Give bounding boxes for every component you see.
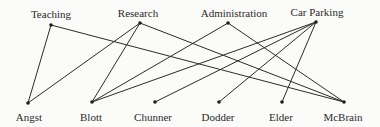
edge-car_parking-chunner <box>155 22 316 102</box>
node-label-dodder: Dodder <box>202 111 235 123</box>
edge-car_parking-blott <box>92 22 316 102</box>
node-label-teaching: Teaching <box>31 8 71 20</box>
edge-teaching-angst <box>28 25 51 103</box>
edge-administration-mcbrain <box>228 23 344 102</box>
bipartite-diagram: TeachingResearchAdministrationCar Parkin… <box>0 0 380 127</box>
node-label-administration: Administration <box>201 7 268 19</box>
node-label-research: Research <box>118 7 158 19</box>
node-dot-research <box>138 21 142 25</box>
node-label-elder: Elder <box>269 111 293 123</box>
node-label-blott: Blott <box>80 111 102 123</box>
node-dot-car_parking <box>314 20 318 24</box>
node-dot-chunner <box>153 100 157 104</box>
edge-teaching-mcbrain <box>51 25 344 102</box>
node-dot-blott <box>90 100 94 104</box>
node-dot-teaching <box>49 23 53 27</box>
node-label-angst: Angst <box>16 111 42 123</box>
edge-administration-blott <box>92 23 228 102</box>
edge-research-mcbrain <box>140 23 344 102</box>
node-dot-administration <box>226 21 230 25</box>
edge-research-blott <box>92 23 140 102</box>
node-label-chunner: Chunner <box>134 111 172 123</box>
edge-car_parking-dodder <box>219 22 316 102</box>
node-dot-mcbrain <box>342 100 346 104</box>
node-label-car_parking: Car Parking <box>291 6 344 18</box>
node-dot-angst <box>26 101 30 105</box>
node-dot-dodder <box>217 100 221 104</box>
node-label-mcbrain: McBrain <box>323 111 362 123</box>
node-dot-elder <box>280 100 284 104</box>
